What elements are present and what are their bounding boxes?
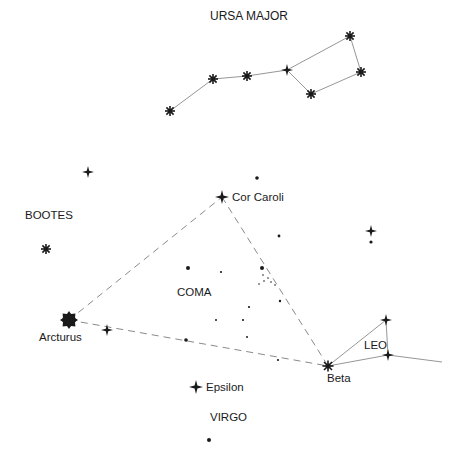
arcturus-star (60, 311, 78, 329)
label-epsilon: Epsilon (206, 382, 244, 394)
star-chart: URSA MAJOR BOOTES Cor Caroli COMA Arctur… (0, 0, 467, 471)
label-leo: LEO (364, 340, 387, 352)
cross-stars (82, 64, 394, 394)
ursa-major-stars (41, 31, 366, 372)
label-arcturus: Arcturus (39, 332, 82, 344)
label-cor-caroli: Cor Caroli (232, 192, 284, 204)
label-virgo: VIRGO (210, 412, 247, 424)
star-chart-graphic (0, 0, 467, 471)
ursa-major-lines (170, 36, 361, 111)
label-beta: Beta (327, 373, 351, 385)
label-ursa-major: URSA MAJOR (210, 10, 288, 22)
coma-triangle (69, 197, 328, 366)
label-bootes: BOOTES (25, 210, 73, 222)
faint-stars (184, 176, 372, 442)
label-coma: COMA (177, 287, 212, 299)
